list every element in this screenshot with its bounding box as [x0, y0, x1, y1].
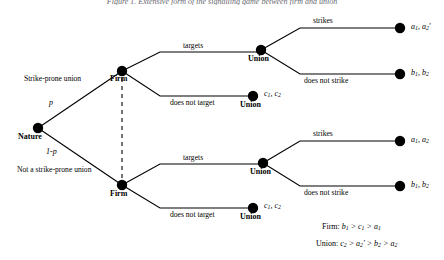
- node-label-firm-top: Firm: [110, 74, 127, 83]
- payoff-top-strike: a1, a2′: [411, 22, 431, 31]
- terminal-node-bottom-nostrike: [395, 181, 405, 191]
- legend-union-expression: c2 > a2′ > b2 > a2: [340, 239, 397, 248]
- payoff-top-nostrike: b1, b2: [411, 68, 429, 77]
- game-tree-figure: Figure 1. Extensive form of the signalli…: [0, 0, 444, 260]
- payoff-bottom-nostrike: b1, b2: [411, 180, 429, 189]
- payoff-firm-sub: 1: [415, 71, 418, 77]
- edge-uniontop-strikes: [261, 28, 400, 50]
- edge-label-targets-bottom: targets: [183, 153, 203, 162]
- tree-edges-canvas: [0, 0, 444, 260]
- probability-label-one-minus-p: 1-p: [46, 147, 57, 156]
- edge-firmtop-targets: [122, 52, 261, 71]
- edge-nature-firm-bottom: [38, 128, 122, 185]
- edge-label-does-not-target-bottom: does not target: [170, 210, 215, 219]
- edge-firmbottom-notarget: [122, 185, 253, 208]
- edge-label-does-not-target-top: does not target: [170, 98, 215, 107]
- edge-unionbottom-strikes: [263, 141, 400, 163]
- node-label-firm-bottom: Firm: [110, 189, 127, 198]
- payoff-union-sub: 2: [278, 92, 281, 98]
- node-label-union-top: Union: [248, 54, 269, 63]
- edge-firmtop-notarget: [122, 71, 253, 96]
- terminal-node-top-nostrike: [395, 69, 405, 79]
- payoff-firm-sub: 1: [268, 204, 271, 210]
- legend-firm-expression: b1 > c1 > a1: [342, 222, 381, 231]
- terminal-node-bottom-strike: [395, 136, 405, 146]
- edge-firmbottom-targets: [122, 164, 263, 185]
- edge-label-not-strike-prone-union: Not a strike-prone union: [17, 165, 91, 174]
- payoff-prime-mark: ′: [429, 22, 431, 31]
- payoff-bottom-strike: a1, a2: [411, 135, 429, 144]
- probability-label-p: p: [49, 98, 53, 107]
- legend-firm-label: Firm:: [322, 222, 340, 231]
- payoff-firm-sub: 1: [415, 138, 418, 144]
- edge-label-strikes-bottom: strikes: [313, 129, 333, 138]
- payoff-firm-sub: 1: [415, 25, 418, 31]
- node-label-union-bottom: Union: [250, 167, 271, 176]
- edge-label-does-not-strike-top: does not strike: [304, 76, 348, 85]
- edge-unionbottom-nostrike: [263, 163, 400, 186]
- edge-label-strikes-top: strikes: [313, 16, 333, 25]
- payoff-firm-sub: 1: [268, 92, 271, 98]
- edge-label-does-not-strike-bottom: does not strike: [304, 188, 348, 197]
- node-label-union-bottom-no-target: Union: [240, 212, 261, 221]
- payoff-firm-sub: 1: [415, 183, 418, 189]
- legend-union-ordering: Union: c2 > a2′ > b2 > a2: [316, 239, 397, 248]
- edge-uniontop-nostrike: [261, 50, 400, 74]
- payoff-top-notarget: c1, c2: [264, 89, 281, 98]
- node-label-nature: Nature: [18, 132, 42, 141]
- edge-label-targets-top: targets: [183, 41, 203, 50]
- terminal-node-top-strike: [395, 23, 405, 33]
- payoff-union-sub: 2: [426, 138, 429, 144]
- tree-nodes: [33, 23, 405, 213]
- payoff-union-sub: 2: [426, 183, 429, 189]
- legend-firm-ordering: Firm: b1 > c1 > a1: [322, 222, 381, 231]
- edge-label-strike-prone-union: Strike-prone union: [24, 74, 81, 83]
- payoff-union-sub: 2: [426, 71, 429, 77]
- payoff-union-sub: 2: [278, 204, 281, 210]
- payoff-bottom-notarget: c1, c2: [264, 201, 281, 210]
- node-label-union-top-no-target: Union: [240, 100, 261, 109]
- legend-union-label: Union:: [316, 239, 338, 248]
